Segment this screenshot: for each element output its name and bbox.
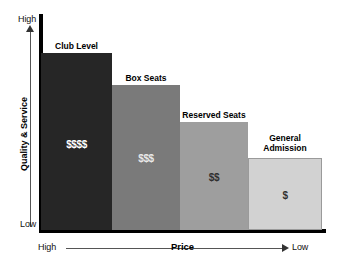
- y-axis-low-label: Low: [20, 219, 36, 229]
- y-axis-title: Quality & Service: [19, 79, 29, 189]
- arrow-up-icon: [26, 25, 34, 32]
- bar-box-seats: $$$: [112, 85, 180, 230]
- x-axis-title: Price: [39, 241, 326, 252]
- bar-reserved-seats: $$: [180, 122, 248, 230]
- bar-amount-general-admission: $: [249, 190, 321, 201]
- bar-label-box-seats: Box Seats: [112, 73, 180, 83]
- y-axis-direction-arrow-shaft: [30, 31, 31, 227]
- bar-label-general-admission: General Admission: [248, 133, 322, 153]
- bar-label-club-level: Club Level: [41, 41, 112, 51]
- bar-amount-box-seats: $$$: [112, 153, 180, 164]
- bar-label-general-admission-line2: Admission: [263, 143, 306, 153]
- bar-label-general-admission-line1: General: [269, 133, 301, 143]
- bar-amount-reserved-seats: $$: [180, 172, 248, 183]
- bar-label-reserved-seats: Reserved Seats: [178, 110, 250, 120]
- bar-general-admission: $: [248, 158, 322, 230]
- bar-club-level: $$$$: [41, 53, 112, 230]
- y-axis-high-label: High: [18, 14, 36, 24]
- seating-tier-chart: High Low High Low Quality & Service Pric…: [0, 0, 337, 262]
- bar-amount-club-level: $$$$: [41, 139, 112, 150]
